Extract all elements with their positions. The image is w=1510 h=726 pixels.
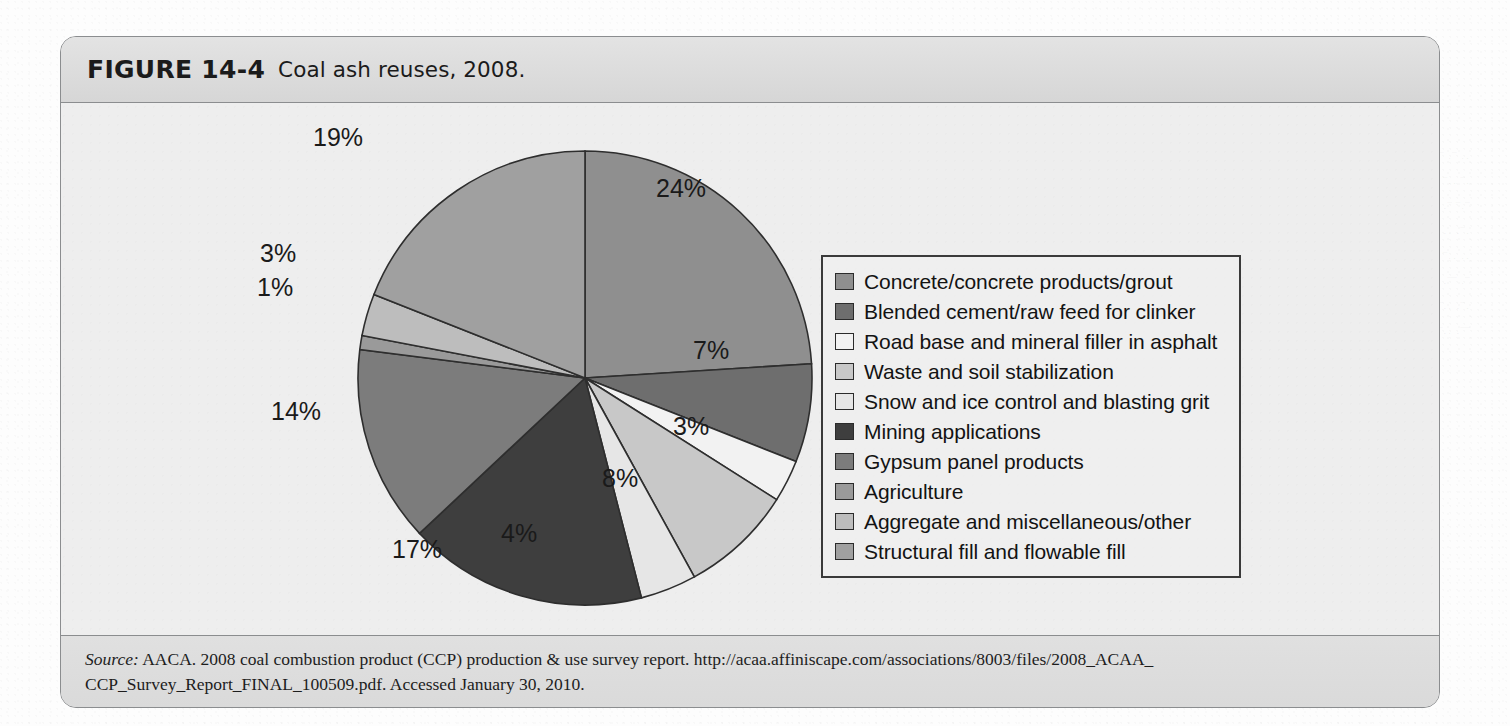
chart-area: 24%7%3%8%4%17%14%1%3%19% Concrete/concre… [61,103,1439,655]
figure-source: Source: AACA. 2008 coal combustion produ… [61,635,1439,707]
source-prefix: Source: [85,649,139,669]
chart-legend: Concrete/concrete products/groutBlended … [821,255,1241,578]
legend-item-label: Waste and soil stabilization [864,361,1114,382]
source-line-2: CCP_Survey_Report_FINAL_100509.pdf. Acce… [85,674,585,694]
legend-item-label: Gypsum panel products [864,451,1084,472]
legend-swatch-icon [835,393,854,410]
legend-item-label: Concrete/concrete products/grout [864,271,1172,292]
figure-header: FIGURE 14-4 Coal ash reuses, 2008. [61,37,1439,103]
legend-item-label: Snow and ice control and blasting grit [864,391,1209,412]
legend-swatch-icon [835,513,854,530]
pie-percent-label: 3% [673,412,709,441]
figure-frame: FIGURE 14-4 Coal ash reuses, 2008. 24%7%… [60,36,1440,708]
pie-percent-label: 7% [693,336,729,365]
pie-percent-label: 24% [656,174,706,203]
legend-swatch-icon [835,303,854,320]
pie-percent-label: 3% [260,239,296,268]
legend-swatch-icon [835,273,854,290]
legend-item: Agriculture [835,476,1227,506]
legend-swatch-icon [835,453,854,470]
legend-item: Gypsum panel products [835,446,1227,476]
legend-item-label: Aggregate and miscellaneous/other [864,511,1191,532]
legend-item: Structural fill and flowable fill [835,536,1227,566]
legend-item-label: Mining applications [864,421,1041,442]
pie-chart: 24%7%3%8%4%17%14%1%3%19% [297,110,877,650]
pie-percent-label: 1% [257,273,293,302]
figure-number: FIGURE 14-4 [87,55,265,84]
source-line-1: AACA. 2008 coal combustion product (CCP)… [139,649,1154,669]
legend-item-label: Blended cement/raw feed for clinker [864,301,1196,322]
pie-chart-svg [297,110,877,650]
legend-swatch-icon [835,363,854,380]
legend-item-label: Road base and mineral filler in asphalt [864,331,1217,352]
legend-item: Aggregate and miscellaneous/other [835,506,1227,536]
legend-item: Waste and soil stabilization [835,356,1227,386]
legend-item: Concrete/concrete products/grout [835,266,1227,296]
legend-item-label: Agriculture [864,481,963,502]
legend-swatch-icon [835,483,854,500]
legend-swatch-icon [835,333,854,350]
legend-swatch-icon [835,543,854,560]
legend-item-label: Structural fill and flowable fill [864,541,1126,562]
legend-item: Road base and mineral filler in asphalt [835,326,1227,356]
pie-percent-label: 4% [501,519,537,548]
pie-percent-label: 14% [271,397,321,426]
pie-percent-label: 8% [602,464,638,493]
legend-item: Blended cement/raw feed for clinker [835,296,1227,326]
legend-item: Mining applications [835,416,1227,446]
pie-percent-label: 17% [392,535,442,564]
legend-swatch-icon [835,423,854,440]
legend-item: Snow and ice control and blasting grit [835,386,1227,416]
figure-caption: Coal ash reuses, 2008. [278,57,525,82]
pie-percent-label: 19% [313,123,363,152]
